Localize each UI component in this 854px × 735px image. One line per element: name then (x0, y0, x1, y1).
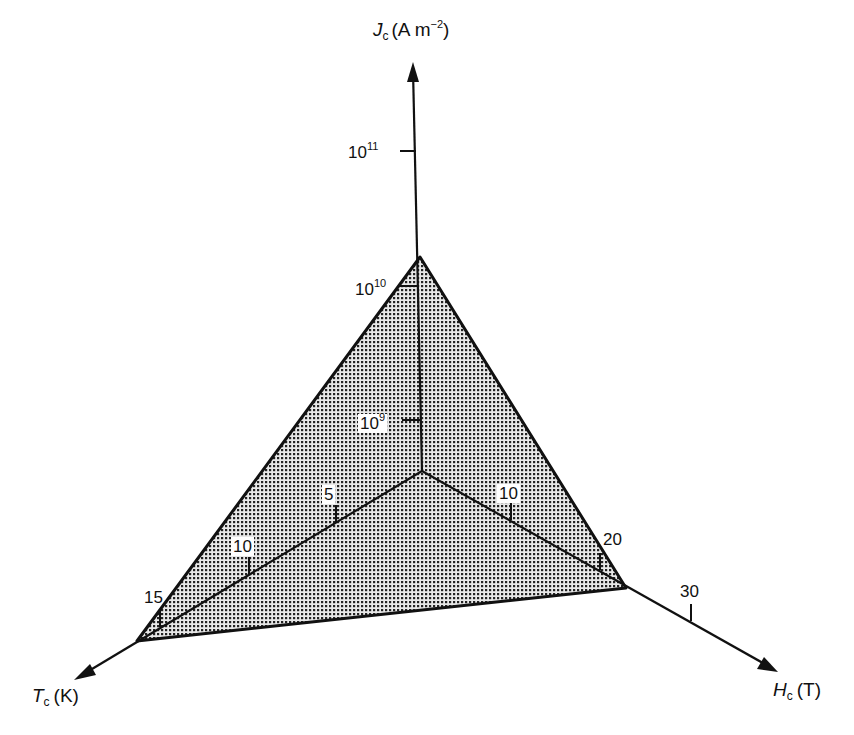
tick-exp: 9 (379, 411, 385, 423)
hc-unit: (T) (797, 679, 821, 700)
jc-unit: (A m (392, 19, 431, 40)
tick-exp: 11 (367, 140, 378, 152)
tick-exp: 10 (374, 277, 386, 289)
tc-symbol: T (32, 685, 44, 706)
hc-symbol: H (773, 679, 787, 700)
jc-arrow-icon (407, 62, 419, 82)
tick-base: 10 (360, 414, 379, 433)
critical-surface-diagram: Jc(A m−2) Tc(K) Hc(T) 1011 1010 109 5 10… (0, 0, 854, 735)
jc-unit-close: ) (443, 19, 449, 40)
jc-axis-label: Jc(A m−2) (373, 20, 449, 39)
jc-symbol: J (373, 19, 383, 40)
tc-subscript: c (44, 695, 50, 709)
tick-base: 10 (348, 143, 367, 162)
critical-surface (137, 257, 626, 641)
tc-tick-label-5: 5 (322, 485, 335, 504)
hc-subscript: c (787, 689, 793, 703)
hc-tick-label-20: 20 (603, 531, 622, 548)
tc-unit: (K) (54, 685, 79, 706)
jc-tick-label-11: 1011 (348, 144, 378, 161)
tc-tick-label-15: 15 (144, 589, 163, 606)
hc-axis-label: Hc(T) (773, 680, 821, 699)
tc-axis-label: Tc(K) (32, 686, 79, 705)
tick-base: 10 (355, 280, 374, 299)
tc-tick-label-10: 10 (231, 537, 254, 556)
jc-unit-exp: −2 (431, 18, 444, 30)
tc-arrow-icon (74, 664, 96, 680)
jc-tick-label-10: 1010 (355, 281, 386, 298)
jc-tick-label-9: 109 (358, 414, 387, 433)
diagram-svg (0, 0, 854, 735)
hc-tick-label-10: 10 (497, 484, 520, 503)
jc-subscript: c (383, 29, 389, 43)
hc-tick-label-30: 30 (680, 583, 699, 600)
hc-arrow-icon (757, 657, 778, 672)
